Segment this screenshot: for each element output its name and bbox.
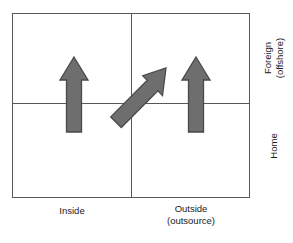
column-label-outside-secondary: (outsource) — [140, 215, 242, 227]
row-label-foreign-primary: Foreign — [262, 42, 273, 74]
column-label-inside-primary: Inside — [59, 205, 84, 216]
sourcing-matrix-figure: Inside Outside (outsource) Foreign (offs… — [0, 0, 293, 243]
column-label-outside: Outside (outsource) — [140, 203, 242, 226]
column-label-inside: Inside — [22, 205, 122, 217]
row-label-foreign-secondary: (offshore) — [274, 21, 286, 95]
column-label-outside-primary: Outside — [175, 203, 208, 214]
inside-home-to-outside-foreign-arrow — [111, 68, 166, 128]
inside-home-to-foreign-arrow — [60, 57, 88, 132]
row-label-home-primary: Home — [268, 133, 279, 158]
row-label-home: Home — [268, 115, 280, 177]
row-label-foreign: Foreign (offshore) — [262, 21, 286, 95]
outside-home-to-foreign-arrow — [182, 57, 210, 132]
